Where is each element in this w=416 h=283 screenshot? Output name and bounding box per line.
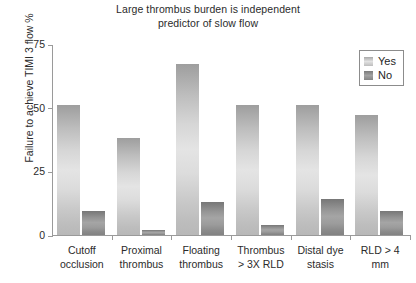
legend-label-no: No <box>378 69 392 82</box>
y-tick-label-50: 50 <box>33 102 45 115</box>
bar-group <box>292 45 352 235</box>
bar-yes <box>117 138 140 235</box>
x-axis-label-line-1: Thrombus <box>231 244 291 258</box>
x-axis-label-line-1: Cutoff <box>52 244 112 258</box>
x-axis-tick <box>231 235 232 240</box>
x-axis-label: Proximalthrombus <box>112 244 172 271</box>
bar-group <box>113 45 173 235</box>
x-axis-label: Thrombus> 3X RLD <box>231 244 291 271</box>
bar-no <box>261 225 284 235</box>
bar-group <box>172 45 232 235</box>
x-axis-label-line-1: Distal dye <box>291 244 351 258</box>
y-tick-label-0: 0 <box>39 229 45 242</box>
y-tick-label-25: 25 <box>33 165 45 178</box>
y-tick-label-75: 75 <box>33 38 45 51</box>
x-axis-tick <box>350 235 351 240</box>
legend-label-yes: Yes <box>378 55 396 68</box>
x-axis-label: RLD > 4mm <box>350 244 410 271</box>
legend-item-no: No <box>364 68 396 82</box>
x-axis-label-line-2: > 3X RLD <box>231 258 291 272</box>
x-axis-labels: CutoffocclusionProximalthrombusFloatingt… <box>52 244 410 278</box>
legend-swatch-no-icon <box>364 71 373 80</box>
bar-no <box>201 202 224 235</box>
bar-group <box>53 45 113 235</box>
x-axis-label-line-1: Floating <box>171 244 231 258</box>
chart-figure: Large thrombus burden is independent pre… <box>0 0 416 283</box>
bar-yes <box>355 115 378 235</box>
x-axis-tick <box>410 235 411 240</box>
bar-group <box>232 45 292 235</box>
bar-no <box>380 211 403 235</box>
x-axis-label-line-2: occlusion <box>52 258 112 272</box>
x-axis-label: Floatingthrombus <box>171 244 231 271</box>
bar-yes <box>296 105 319 235</box>
bar-no <box>321 199 344 235</box>
chart-title: Large thrombus burden is independent pre… <box>0 3 416 30</box>
x-axis-label-line-2: thrombus <box>112 258 172 272</box>
bar-yes <box>57 105 80 235</box>
legend-item-yes: Yes <box>364 54 396 68</box>
x-axis-tick <box>112 235 113 240</box>
x-axis-label-line-2: thrombus <box>171 258 231 272</box>
bar-groups <box>53 45 410 235</box>
bar-yes <box>176 64 199 235</box>
chart-title-line-1: Large thrombus burden is independent <box>0 3 416 17</box>
y-tick-line-0 <box>48 236 53 237</box>
plot-area: 75 50 25 0 Yes No <box>52 45 410 236</box>
x-axis-label: Cutoffocclusion <box>52 244 112 271</box>
y-axis-title: Failure to achieve TIMI 3 flow % <box>23 0 39 188</box>
x-axis-tick <box>291 235 292 240</box>
bar-no <box>82 211 105 235</box>
legend-swatch-yes-icon <box>364 57 373 66</box>
x-axis-label-line-2: stasis <box>291 258 351 272</box>
x-axis-label-line-2: mm <box>350 258 410 272</box>
chart-title-line-2: predictor of slow flow <box>0 17 416 31</box>
x-axis-label: Distal dyestasis <box>291 244 351 271</box>
bar-yes <box>236 105 259 235</box>
chart-legend: Yes No <box>359 50 404 86</box>
x-axis-tick <box>171 235 172 240</box>
x-axis-label-line-1: RLD > 4 <box>350 244 410 258</box>
bar-no <box>142 230 165 235</box>
x-axis-label-line-1: Proximal <box>112 244 172 258</box>
